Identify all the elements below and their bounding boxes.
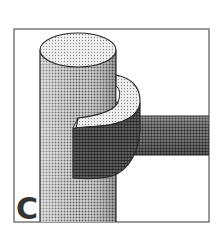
post-top-face (40, 33, 116, 67)
panel-label: C (16, 194, 38, 224)
figure-panel: C (0, 0, 220, 237)
